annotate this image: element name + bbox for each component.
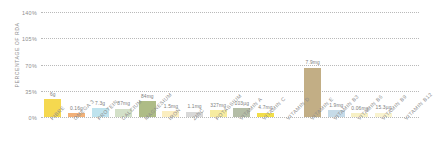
bar-value-label: 7.9mg: [306, 61, 320, 66]
bar-value-label: 87mg: [117, 102, 130, 107]
bar-slot[interactable]: 6g: [41, 12, 65, 117]
y-axis-tick-label: 105%: [22, 36, 37, 42]
bar-slot[interactable]: 1.1mg: [183, 12, 207, 117]
y-axis-tick-label: 0%: [29, 115, 37, 121]
bar-slot[interactable]: 327mg: [206, 12, 230, 117]
bar-value-label: 6g: [50, 93, 56, 98]
bar-value-label: 7.3g: [95, 102, 105, 107]
bar-slot[interactable]: 0.16g: [65, 12, 89, 117]
y-axis-tick-label: 140%: [22, 10, 37, 16]
y-axis-tick-label: 35%: [25, 89, 37, 95]
x-axis-labels: FIBREOMEGA 3PROTEINCALCIUMMAGNESIUMIRONZ…: [41, 117, 419, 165]
y-axis-tick-label: 70%: [25, 63, 37, 69]
bar-value-label: 84mg: [141, 95, 154, 100]
y-axis-title: PERCENTAGE OF RDA: [14, 5, 20, 105]
